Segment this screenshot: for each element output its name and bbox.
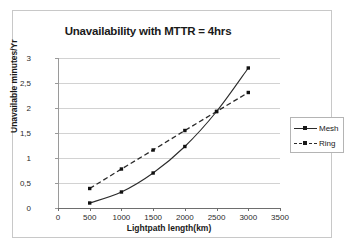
x-tick-label: 1000	[104, 213, 138, 222]
x-tick-label: 3500	[263, 213, 297, 222]
data-point-mesh-2000	[183, 145, 186, 148]
y-tick-label: 3	[1, 54, 31, 63]
data-point-mesh-3000	[247, 66, 250, 69]
x-tick-mark	[58, 208, 59, 211]
x-tick-mark	[217, 208, 218, 211]
y-tick-label: 0	[1, 204, 31, 213]
x-axis-line	[58, 208, 280, 209]
x-tick-mark	[153, 208, 154, 211]
x-tick-mark	[185, 208, 186, 211]
chart-legend: Mesh Ring	[290, 117, 344, 153]
y-tick-label: 1	[1, 154, 31, 163]
data-point-ring-3000	[247, 91, 250, 94]
x-tick-label: 0	[41, 213, 75, 222]
x-tick-label: 500	[73, 213, 107, 222]
x-tick-label: 1500	[136, 213, 170, 222]
plot-area: 00,511,522,53 05001000150020002500300035…	[58, 58, 280, 208]
x-tick-mark	[90, 208, 91, 211]
x-tick-mark	[280, 208, 281, 211]
chart-title: Unavailability with MTTR = 4hrs	[13, 25, 283, 37]
series-line-mesh	[90, 68, 249, 203]
data-point-ring-2500	[215, 110, 218, 113]
y-tick-label: 2	[1, 104, 31, 113]
legend-key-solid-line-icon	[294, 124, 317, 133]
legend-label-ring: Ring	[319, 139, 335, 148]
legend-item-ring: Ring	[294, 137, 344, 150]
chart-frame: Unavailability with MTTR = 4hrs Unavaila…	[12, 10, 332, 238]
data-point-mesh-1500	[151, 171, 154, 174]
x-tick-mark	[121, 208, 122, 211]
x-tick-label: 2500	[200, 213, 234, 222]
data-point-ring-1000	[120, 167, 123, 170]
x-tick-label: 3000	[231, 213, 265, 222]
legend-item-mesh: Mesh	[294, 122, 344, 135]
x-axis-label: Lightpath length(km)	[58, 223, 280, 233]
x-tick-mark	[248, 208, 249, 211]
legend-key-dashed-line-icon	[294, 139, 317, 148]
x-tick-label: 2000	[168, 213, 202, 222]
data-point-mesh-1000	[120, 190, 123, 193]
y-tick-label: 0,5	[1, 179, 31, 188]
y-tick-label: 1,5	[1, 129, 31, 138]
data-point-ring-500	[88, 187, 91, 190]
data-point-mesh-500	[88, 201, 91, 204]
series-line-ring	[90, 93, 249, 189]
data-point-ring-2000	[183, 129, 186, 132]
y-tick-label: 2,5	[1, 79, 31, 88]
data-point-ring-1500	[151, 148, 154, 151]
legend-label-mesh: Mesh	[319, 124, 339, 133]
series-layer	[58, 58, 280, 208]
